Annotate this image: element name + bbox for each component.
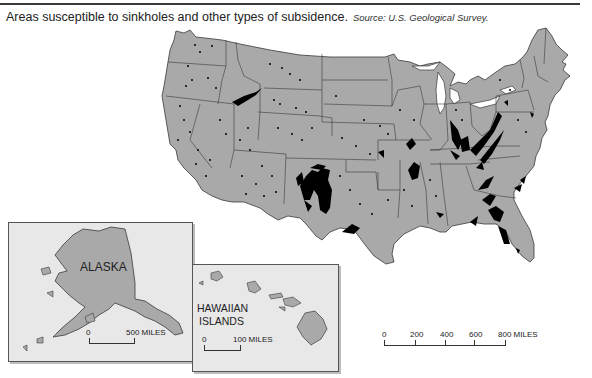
alaska-scale-bar: [89, 338, 135, 344]
scale-tick-400: 400: [440, 330, 453, 339]
scale-tick-mark-400: [445, 340, 446, 345]
alaska-scale-start: 0: [86, 328, 90, 337]
scale-tick-mark-600: [474, 340, 475, 345]
hawaii-scale-start: 0: [202, 335, 206, 344]
scale-tick-800: 800 MILES: [498, 330, 538, 339]
scale-tick-0: 0: [382, 330, 386, 339]
alaska-scale-end: 500 MILES: [126, 328, 166, 337]
scale-tick-200: 200: [410, 330, 423, 339]
hawaii-label-line1: HAWAIIAN: [197, 302, 248, 314]
scale-tick-600: 600: [469, 330, 482, 339]
hawaii-scale-bar: [204, 345, 241, 351]
alaska-inset: ALASKA 0 500 MILES: [8, 222, 193, 362]
hawaii-inset: HAWAIIAN ISLANDS 0 100 MILES: [192, 264, 339, 372]
hawaii-label-line2: ISLANDS: [199, 315, 244, 327]
scale-tick-mark-200: [415, 340, 416, 345]
alaska-label: ALASKA: [80, 261, 127, 273]
hawaii-scale-end: 100 MILES: [233, 335, 273, 344]
